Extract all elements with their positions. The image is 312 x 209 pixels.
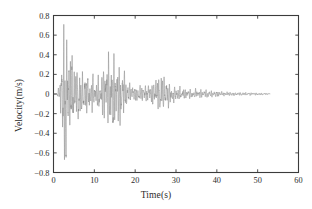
y-tick-label: 0 bbox=[45, 90, 49, 99]
x-axis-title: Time(s) bbox=[0, 190, 312, 200]
y-axis-title: Velocity(m/s) bbox=[14, 79, 24, 132]
y-tick-label: −0.2 bbox=[34, 110, 49, 119]
x-tick-label: 40 bbox=[213, 176, 221, 185]
velocity-time-history-figure: 0102030405060 −0.8−0.6−0.4−0.200.20.40.6… bbox=[0, 0, 312, 209]
x-tick-label: 10 bbox=[90, 176, 98, 185]
chart-canvas: 0102030405060 −0.8−0.6−0.4−0.200.20.40.6… bbox=[0, 0, 312, 209]
x-tick-label: 50 bbox=[254, 176, 262, 185]
y-tick-label: −0.6 bbox=[34, 149, 49, 158]
x-tick-label: 60 bbox=[294, 176, 302, 185]
y-tick-label: −0.4 bbox=[34, 129, 50, 138]
x-tick-label: 0 bbox=[51, 176, 55, 185]
y-tick-label: 0.8 bbox=[39, 12, 49, 21]
x-tick-label: 30 bbox=[172, 176, 180, 185]
y-tick-label: 0.6 bbox=[39, 31, 49, 40]
y-tick-label: −0.8 bbox=[34, 169, 49, 178]
x-axis-tick-labels: 0102030405060 bbox=[51, 176, 302, 185]
y-axis-tick-labels: −0.8−0.6−0.4−0.200.20.40.60.8 bbox=[34, 12, 50, 178]
y-tick-label: 0.4 bbox=[39, 51, 50, 60]
x-tick-label: 20 bbox=[131, 176, 139, 185]
y-tick-label: 0.2 bbox=[39, 70, 49, 79]
